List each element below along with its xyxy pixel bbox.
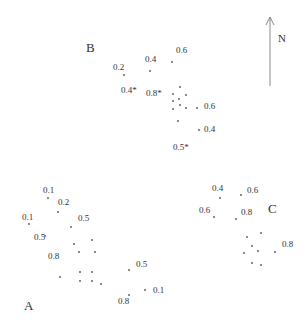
data-point: [73, 243, 75, 245]
value-label: 0.5: [136, 260, 147, 269]
data-point: [128, 269, 130, 271]
value-label: 0.4*: [121, 86, 137, 95]
data-point: [171, 61, 173, 63]
value-label: 0.1: [22, 213, 33, 222]
data-point: [185, 94, 187, 96]
data-point: [28, 223, 30, 225]
data-point: [100, 283, 102, 285]
data-point: [44, 235, 46, 237]
data-point: [91, 271, 93, 273]
value-label: 0.6: [204, 102, 215, 111]
data-point: [240, 194, 242, 196]
data-point: [149, 70, 151, 72]
data-point: [79, 271, 81, 273]
data-point: [47, 197, 49, 199]
data-point: [260, 232, 262, 234]
value-label: 0.5*: [173, 143, 189, 152]
data-point: [235, 218, 237, 220]
cluster-label-b: B: [86, 41, 95, 54]
data-point: [179, 104, 181, 106]
value-label: 0.6: [247, 186, 258, 195]
value-label: 0.8*: [146, 89, 162, 98]
data-point: [198, 129, 200, 131]
value-label: 0.6: [176, 46, 187, 55]
value-label: 0.4: [204, 125, 215, 134]
value-label: 0.1: [153, 286, 164, 295]
data-point: [172, 108, 174, 110]
data-point: [91, 280, 93, 282]
cluster-label-a: A: [24, 299, 33, 312]
data-point: [213, 216, 215, 218]
value-label: 0.4: [145, 55, 156, 64]
data-point: [79, 280, 81, 282]
data-point: [251, 245, 253, 247]
value-label: 0.2: [58, 198, 69, 207]
value-label: 0.8: [241, 208, 252, 217]
data-point: [94, 251, 96, 253]
data-point: [57, 211, 59, 213]
data-point: [257, 250, 259, 252]
data-point: [178, 98, 180, 100]
north-label: N: [278, 33, 286, 44]
value-label: 0.8: [282, 240, 293, 249]
data-point: [172, 100, 174, 102]
data-point: [274, 251, 276, 253]
data-point: [219, 197, 221, 199]
data-point: [243, 252, 245, 254]
north-arrow-icon: [0, 0, 308, 325]
data-point: [70, 226, 72, 228]
value-label: 0.8: [118, 297, 129, 306]
map-diagram: N B 0.2 0.4 0.6 0.4* 0.8* 0.6 0.4 0.5* A…: [0, 0, 308, 325]
data-point: [185, 107, 187, 109]
value-label: 0.6: [199, 206, 210, 215]
data-point: [123, 74, 125, 76]
data-point: [260, 264, 262, 266]
data-point: [144, 289, 146, 291]
data-point: [196, 107, 198, 109]
data-point: [78, 251, 80, 253]
value-label: 0.5: [78, 214, 89, 223]
data-point: [246, 236, 248, 238]
data-point: [177, 120, 179, 122]
data-point: [59, 276, 61, 278]
value-label: 0.1: [43, 186, 54, 195]
data-point: [128, 294, 130, 296]
cluster-label-c: C: [268, 202, 277, 215]
value-label: 0.2: [113, 63, 124, 72]
data-point: [179, 86, 181, 88]
data-point: [251, 262, 253, 264]
value-label: 0.8: [48, 252, 59, 261]
value-label: 0.4: [212, 184, 223, 193]
data-point: [172, 93, 174, 95]
data-point: [91, 239, 93, 241]
